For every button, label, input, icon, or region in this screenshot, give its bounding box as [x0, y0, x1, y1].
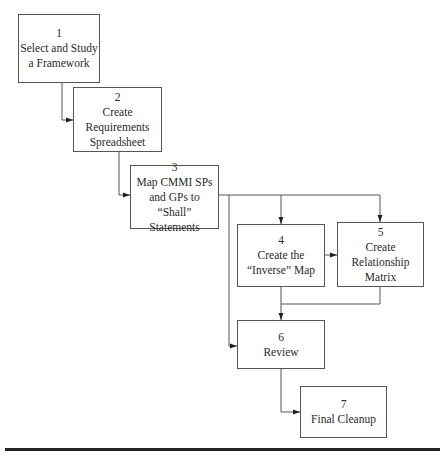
step-label-line: Review	[263, 345, 298, 360]
step-number: 7	[341, 397, 347, 412]
step-5-relationship-matrix: 5 Create Relationship Matrix	[337, 222, 424, 287]
step-6-review: 6 Review	[237, 320, 325, 369]
connector-6-to-7	[281, 369, 300, 412]
flowchart-canvas: 1 Select and Study a Framework 2 Create …	[0, 0, 443, 458]
step-label-line: Create	[365, 240, 395, 255]
step-7-final-cleanup: 7 Final Cleanup	[300, 386, 387, 438]
step-label-line: Matrix	[365, 270, 396, 285]
step-label-line: Create	[102, 105, 132, 120]
step-number: 1	[56, 26, 62, 41]
step-1-select-framework: 1 Select and Study a Framework	[18, 14, 100, 83]
step-number: 6	[278, 330, 284, 345]
step-number: 5	[378, 225, 384, 240]
connector-1-to-2	[62, 83, 73, 120]
step-label-line: Map CMMI SPs	[136, 175, 212, 190]
step-label-line: Relationship	[351, 255, 409, 270]
step-number: 4	[278, 233, 284, 248]
step-label-line: Statements	[149, 220, 199, 235]
step-label-line: Final Cleanup	[311, 412, 376, 427]
step-label-line: Spreadsheet	[90, 135, 146, 150]
step-label-line: Requirements	[86, 120, 150, 135]
step-label-line: “Shall”	[158, 205, 192, 220]
connector-3-to-6	[229, 195, 237, 346]
step-label-line: “Inverse” Map	[247, 263, 315, 278]
step-label-line: Create the	[258, 248, 305, 263]
step-number: 2	[115, 90, 121, 105]
connector-2-to-3	[119, 152, 130, 195]
step-2-requirements-spreadsheet: 2 Create Requirements Spreadsheet	[73, 87, 162, 152]
step-3-map-cmmi: 3 Map CMMI SPs and GPs to “Shall” Statem…	[130, 165, 219, 229]
step-number: 3	[172, 160, 178, 175]
step-4-inverse-map: 4 Create the “Inverse” Map	[237, 224, 325, 287]
step-label-line: a Framework	[29, 56, 90, 71]
bottom-rule-divider	[5, 448, 440, 451]
step-label-line: and GPs to	[149, 190, 199, 205]
step-label-line: Select and Study	[20, 41, 97, 56]
connector-5-to-join	[281, 287, 380, 304]
